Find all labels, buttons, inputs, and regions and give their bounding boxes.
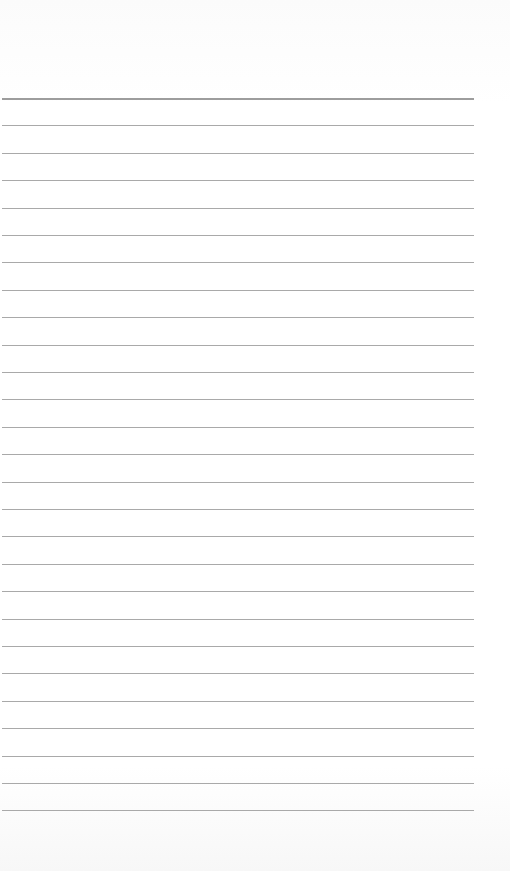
ruled-line <box>2 536 474 537</box>
ruled-line <box>2 564 474 565</box>
ruled-line <box>2 208 474 209</box>
lined-paper-sheet <box>0 0 510 871</box>
ruled-line <box>2 619 474 620</box>
ruled-line <box>2 591 474 592</box>
ruled-line <box>2 317 474 318</box>
ruled-line <box>2 98 474 100</box>
ruled-line <box>2 125 474 126</box>
ruled-line <box>2 153 474 154</box>
ruled-line <box>2 728 474 729</box>
ruled-line <box>2 673 474 674</box>
ruled-line <box>2 345 474 346</box>
ruled-line <box>2 701 474 702</box>
ruled-line <box>2 235 474 236</box>
ruled-line <box>2 290 474 291</box>
ruled-line <box>2 262 474 263</box>
ruled-line <box>2 427 474 428</box>
ruled-line <box>2 646 474 647</box>
ruled-line <box>2 756 474 757</box>
ruled-line <box>2 783 474 784</box>
ruled-line <box>2 509 474 510</box>
ruled-line <box>2 399 474 400</box>
ruled-line <box>2 810 474 811</box>
ruled-line <box>2 454 474 455</box>
ruled-line <box>2 482 474 483</box>
ruled-line <box>2 180 474 181</box>
ruled-line <box>2 372 474 373</box>
